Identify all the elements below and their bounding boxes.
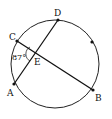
label-e: E bbox=[34, 57, 41, 67]
circle-diagram: D C A B E 87° bbox=[0, 0, 112, 119]
label-c: C bbox=[9, 32, 16, 42]
angle-label: 87° bbox=[12, 53, 26, 62]
point-b bbox=[91, 88, 94, 91]
point-a bbox=[12, 82, 15, 85]
extra-point bbox=[90, 40, 93, 43]
label-b: B bbox=[95, 93, 102, 103]
circle bbox=[11, 20, 99, 108]
label-d: D bbox=[54, 8, 61, 18]
point-d bbox=[56, 18, 59, 21]
label-a: A bbox=[6, 88, 14, 98]
chord-ad bbox=[14, 20, 58, 84]
